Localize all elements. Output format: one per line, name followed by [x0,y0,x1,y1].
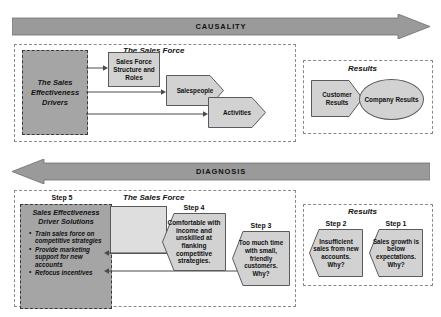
step-3-text: Too much time with small, friendly custo… [232,239,290,278]
connector-drivers-to-activities [86,110,208,118]
step-4-text: Comfortable with income and unskilled at… [162,219,226,265]
step-4-chevron: Comfortable with income and unskilled at… [162,213,226,271]
solutions-bullet: Train sales force on competitive strateg… [31,230,108,245]
solutions-bullet-list: Train sales force on competitive strateg… [24,230,108,277]
step-4-label: Step 4 [166,204,222,211]
structure-box-text: Sales Force Structure and Roles [109,58,159,82]
company-results-ellipse: Company Results [359,79,424,120]
drivers-box-text: The Sales Effectiveness Drivers [23,78,87,108]
connector-step4-to-solutions [104,249,166,257]
bottom-results-panel-title: Results [348,207,377,216]
salespeople-chevron-text: Salespeople [174,87,217,95]
step-2-chevron: Insufficient sales from new accounts. Wh… [309,229,363,277]
step-5-label: Step 5 [22,194,102,201]
bottom-sales-force-panel-title: The Sales Force [123,193,184,202]
step-3-chevron: Too much time with small, friendly custo… [232,231,290,286]
sales-force-structure-box: Sales Force Structure and Roles [108,52,160,87]
causality-band-arrow: CAUSALITY [12,14,430,39]
customer-results-chevron: Customer Results [311,80,363,117]
step-2-text: Insufficient sales from new accounts. Wh… [309,238,363,269]
step-3-label: Step 3 [234,222,288,229]
top-results-panel-title: Results [348,64,377,73]
sales-effectiveness-drivers-box: The Sales Effectiveness Drivers [22,50,88,135]
solutions-heading: Sales Effectiveness Driver Solutions [24,208,108,227]
solutions-bullet: Provide marketing support for new accoun… [31,246,108,269]
diagram-canvas: CAUSALITY The Sales Force The Sales Effe… [0,0,441,317]
causality-band-label: CAUSALITY [195,22,246,31]
solutions-bullet: Refocus incentives [31,269,108,277]
step-1-text: Sales growth is below expectations. Why? [369,238,423,269]
step-1-chevron: Sales growth is below expectations. Why? [369,229,423,277]
diagnosis-band-label: DIAGNOSIS [196,167,246,176]
activities-chevron-text: Activities [220,109,254,117]
company-results-text: Company Results [365,96,419,104]
step-2-label: Step 2 [310,220,362,227]
activities-chevron: Activities [208,97,266,128]
connector-drivers-to-structure [86,64,108,72]
step-1-label: Step 1 [370,220,422,227]
empty-placeholder-box [110,206,167,254]
driver-solutions-box: Sales Effectiveness Driver Solutions Tra… [20,204,112,309]
customer-results-text: Customer Results [311,91,363,106]
connector-drivers-to-salespeople [86,88,166,96]
diagnosis-band-arrow: DIAGNOSIS [12,159,430,184]
